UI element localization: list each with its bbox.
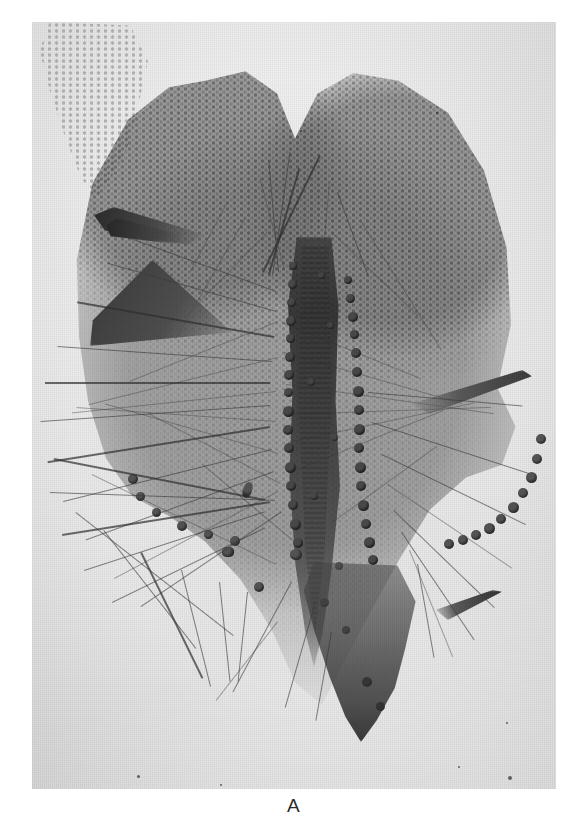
- panel-label: A: [0, 795, 587, 817]
- figure-page: A: [0, 0, 587, 839]
- photographic-plate: [32, 22, 556, 789]
- halftone-grain: [32, 22, 556, 789]
